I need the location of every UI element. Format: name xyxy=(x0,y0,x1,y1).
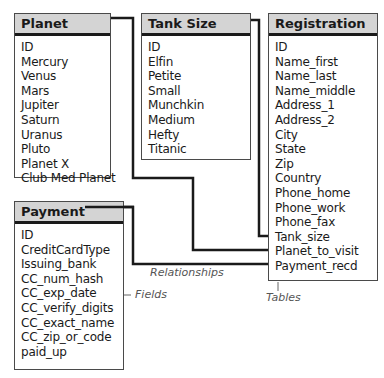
relationships-label: Relationships xyxy=(150,266,224,279)
payment-table-header: Payment xyxy=(15,202,123,224)
field: State xyxy=(275,142,377,157)
field: Venus xyxy=(21,69,110,84)
field: CreditCardType xyxy=(21,243,123,258)
field: Phone_work xyxy=(275,201,377,216)
field: Name_first xyxy=(275,55,377,70)
tank-size-relationship-line xyxy=(250,20,268,236)
registration-field-list: ID Name_first Name_last Name_middle Addr… xyxy=(269,36,377,274)
field: CC_exp_date xyxy=(21,286,123,301)
planet-table: Planet ID Mercury Venus Mars Jupiter Sat… xyxy=(14,13,111,178)
tables-label: Tables xyxy=(266,291,301,304)
field: Medium xyxy=(148,113,250,128)
field: Small xyxy=(148,84,250,99)
field: Address_1 xyxy=(275,98,377,113)
tank-size-table-header: Tank Size xyxy=(142,14,250,36)
field: Pluto xyxy=(21,142,110,157)
field: Hefty xyxy=(148,128,250,143)
payment-field-list: ID CreditCardType Issuing_bank CC_num_ha… xyxy=(15,224,123,359)
tank-size-field-list: ID Elfin Petite Small Munchkin Medium He… xyxy=(142,36,250,157)
field: Mercury xyxy=(21,55,110,70)
field: Issuing_bank xyxy=(21,257,123,272)
registration-table: Registration ID Name_first Name_last Nam… xyxy=(268,13,378,281)
field: Name_middle xyxy=(275,84,377,99)
fields-label: Fields xyxy=(135,288,167,301)
field: Phone_home xyxy=(275,186,377,201)
field: Zip xyxy=(275,157,377,172)
field: Elfin xyxy=(148,55,250,70)
field: ID xyxy=(148,40,250,55)
field: Mars xyxy=(21,84,110,99)
tank-size-table: Tank Size ID Elfin Petite Small Munchkin… xyxy=(141,13,251,160)
field: Uranus xyxy=(21,128,110,143)
field: Tank_size xyxy=(275,230,377,245)
field: CC_zip_or_code xyxy=(21,330,123,345)
field: Petite xyxy=(148,69,250,84)
field: City xyxy=(275,128,377,143)
field: Country xyxy=(275,171,377,186)
field: Address_2 xyxy=(275,113,377,128)
field: Saturn xyxy=(21,113,110,128)
field: Payment_recd xyxy=(275,259,377,274)
field: Titanic xyxy=(148,142,250,157)
field: Planet X xyxy=(21,157,110,172)
planet-table-header: Planet xyxy=(15,14,110,36)
field: paid_up xyxy=(21,345,123,360)
field: Jupiter xyxy=(21,98,110,113)
field: ID xyxy=(21,228,123,243)
field: Club Med Planet xyxy=(21,171,110,186)
registration-table-header: Registration xyxy=(269,14,377,36)
field: ID xyxy=(275,40,377,55)
field: Name_last xyxy=(275,69,377,84)
field: Phone_fax xyxy=(275,215,377,230)
field: Munchkin xyxy=(148,98,250,113)
field: Planet_to_visit xyxy=(275,244,377,259)
field: CC_exact_name xyxy=(21,316,123,331)
planet-field-list: ID Mercury Venus Mars Jupiter Saturn Ura… xyxy=(15,36,110,186)
field: CC_num_hash xyxy=(21,272,123,287)
field: CC_verify_digits xyxy=(21,301,123,316)
field: ID xyxy=(21,40,110,55)
payment-table: Payment ID CreditCardType Issuing_bank C… xyxy=(14,201,124,370)
